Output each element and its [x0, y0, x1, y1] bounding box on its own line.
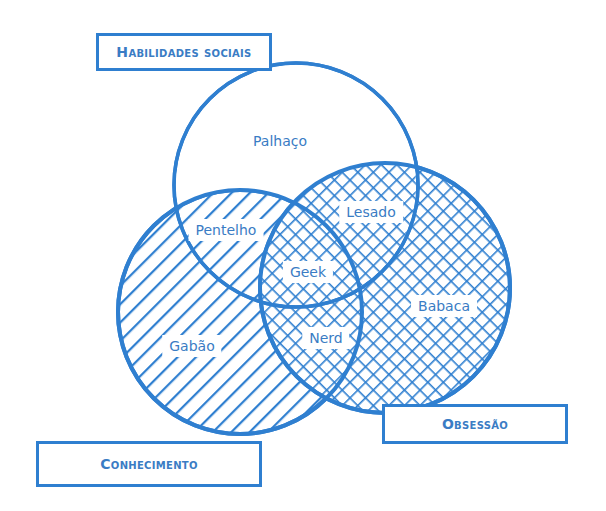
region-label-lesado: Lesado: [339, 201, 403, 223]
knowledge-category-box: Conhecimento: [36, 441, 262, 487]
region-label-babaca: Babaca: [411, 295, 477, 317]
region-label-palhaco: Palhaço: [246, 130, 314, 152]
region-label-geek: Geek: [283, 261, 333, 283]
social-category-box: Habilidades sociais: [96, 33, 272, 71]
obsession-category-box: Obsessão: [382, 404, 568, 444]
region-label-nerd: Nerd: [302, 327, 349, 349]
region-label-gabao: Gabão: [162, 335, 221, 357]
region-label-pentelho: Pentelho: [189, 219, 264, 241]
